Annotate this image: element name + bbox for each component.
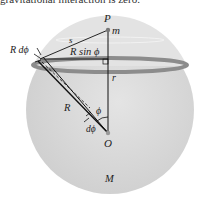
sphere-diagram: P m s R dϕ R sin ϕ r R ϕ dϕ O M: [0, 0, 204, 203]
label-r-sin-phi: R sin ϕ: [69, 46, 100, 57]
label-M: M: [104, 173, 115, 184]
label-m: m: [112, 24, 120, 36]
label-r: r: [112, 72, 116, 83]
mass-m-point: [106, 28, 110, 32]
label-phi: ϕ: [96, 105, 101, 116]
label-r-dphi: R dϕ: [9, 44, 29, 55]
label-s: s: [69, 35, 73, 45]
label-O: O: [104, 137, 112, 149]
label-P: P: [103, 12, 111, 24]
label-dphi: dϕ: [86, 124, 96, 134]
center-o-point: [106, 131, 110, 135]
label-R: R: [63, 102, 71, 113]
